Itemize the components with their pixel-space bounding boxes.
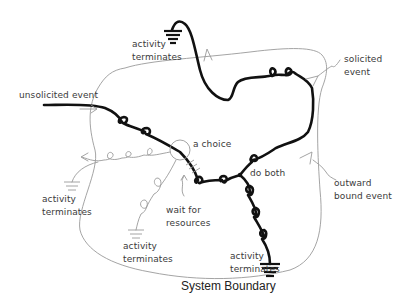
label-a-choice: a choice	[193, 139, 232, 149]
do-both-junction-dot	[238, 173, 242, 177]
solicited-pointer	[318, 60, 340, 76]
choice-circle	[170, 140, 190, 160]
system-boundary-diagram: unsolicited event activity terminates so…	[0, 0, 402, 307]
diagram-title: System Boundary	[181, 279, 276, 293]
label-wait-for-2: resources	[166, 218, 211, 228]
label-wait-for-1: wait for	[166, 205, 201, 215]
termination-icon-top	[164, 31, 182, 43]
label-unsolicited-event: unsolicited event	[19, 90, 98, 100]
secondary-thread-to-left-ground	[72, 162, 98, 182]
outward-arrow	[300, 152, 312, 164]
label-term-bottom-1: activity	[230, 251, 265, 261]
wait-for-pointer	[182, 176, 184, 196]
label-term-midleft-1: activity	[123, 241, 158, 251]
label-term-bottom-2: terminates	[230, 264, 280, 274]
label-outward-1: outward	[334, 178, 372, 188]
label-term-midleft-2: terminates	[123, 254, 173, 264]
label-term-left-2: terminates	[42, 207, 92, 217]
label-term-left-1: activity	[42, 194, 77, 204]
label-outward-2: bound event	[334, 191, 392, 201]
outward-pointer	[313, 160, 336, 180]
label-term-top-2: terminates	[132, 52, 182, 62]
top-exit-arrow	[204, 49, 212, 61]
termination-icon-midleft	[128, 230, 144, 238]
system-boundary-outline	[80, 49, 327, 279]
label-do-both: do both	[250, 168, 285, 178]
label-term-top-1: activity	[132, 39, 167, 49]
label-solicited-2: event	[344, 67, 371, 77]
termination-icon-left	[64, 182, 80, 190]
label-solicited-1: solicited	[344, 54, 382, 64]
